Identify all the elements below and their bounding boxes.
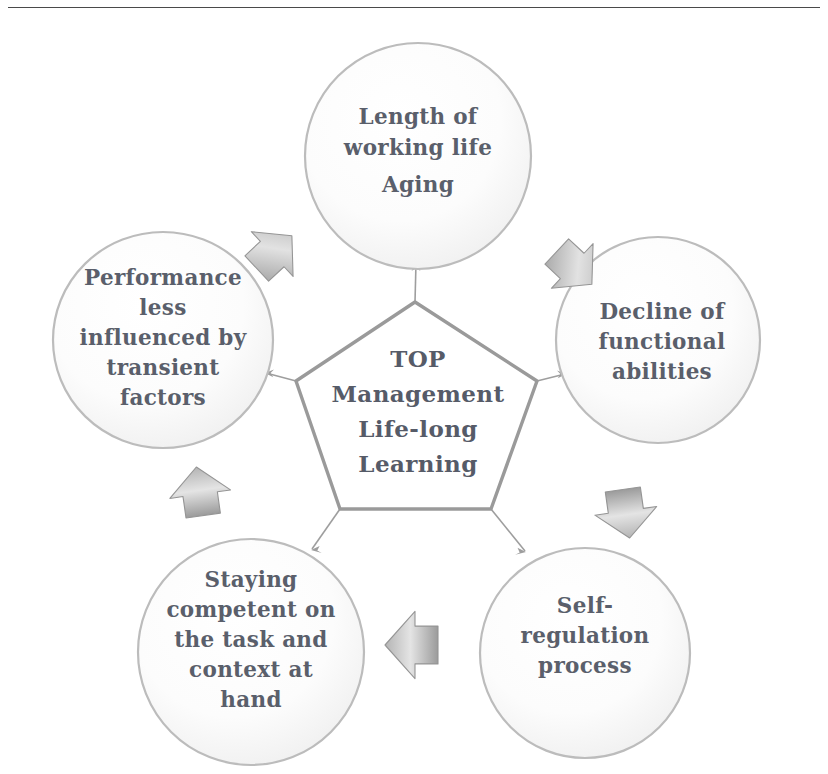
bubble-line-2: abilities xyxy=(612,359,712,384)
bubble-line-4: hand xyxy=(220,687,281,712)
bubble-line-0: Self- xyxy=(557,593,613,618)
connector-center-to-bottom-left xyxy=(312,509,340,549)
bubble-line-2: process xyxy=(538,653,632,678)
center-line-1: Management xyxy=(331,380,504,407)
bubble-length-of-working-life[interactable]: Length of working life Aging xyxy=(305,43,531,269)
bubble-line-1: working life xyxy=(343,135,492,160)
bubble-line-1: less xyxy=(139,295,186,320)
center-line-0: TOP xyxy=(390,345,446,372)
bubble-line-0: Performance xyxy=(84,265,242,290)
connector-center-to-bottom-right xyxy=(491,509,525,551)
central-pentagon[interactable]: TOP Management Life-long Learning xyxy=(296,302,537,509)
bubble-staying-competent[interactable]: Staying competent on the task and contex… xyxy=(138,539,364,765)
diagram-page: TOP Management Life-long Learning Length… xyxy=(0,0,828,774)
center-line-3: Learning xyxy=(358,450,477,477)
bubble-line-2: the task and xyxy=(174,627,327,652)
bubble-line-3: transient xyxy=(106,355,219,380)
arrow-bottom-left-to-left-icon xyxy=(166,463,233,520)
bubble-line-4: factors xyxy=(120,385,206,410)
bubble-line-0: Decline of xyxy=(599,299,726,324)
arrow-bottom-right-to-bottom-left-icon xyxy=(385,611,438,678)
bubble-line-2: Aging xyxy=(381,172,454,197)
bubble-line-1: functional xyxy=(599,329,726,354)
arrow-right-to-bottom-right-icon xyxy=(592,485,661,542)
bubble-line-2: influenced by xyxy=(80,325,247,350)
bubble-line-3: context at xyxy=(189,657,313,682)
cycle-diagram: TOP Management Life-long Learning Length… xyxy=(0,0,828,774)
bubble-line-0: Length of xyxy=(359,104,479,129)
bubble-performance-less-influenced[interactable]: Performance less influenced by transient… xyxy=(53,232,273,448)
center-line-2: Life-long xyxy=(358,415,477,442)
connector-arrowhead-bottom-right xyxy=(515,548,526,555)
bubble-line-1: regulation xyxy=(521,623,650,648)
bubble-line-0: Staying xyxy=(205,567,298,592)
bubble-line-1: competent on xyxy=(166,597,335,622)
bubble-self-regulation-process[interactable]: Self- regulation process xyxy=(480,548,690,758)
